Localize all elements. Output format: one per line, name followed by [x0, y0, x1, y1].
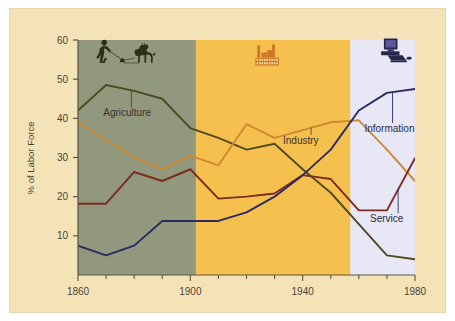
y-tick-label: 40 — [57, 113, 69, 124]
x-tick-label: 1900 — [179, 286, 202, 297]
y-axis-title: % of Labor Force — [25, 122, 36, 195]
era-bands — [78, 40, 415, 275]
y-tick-label: 20 — [57, 191, 69, 202]
y-tick-label: 50 — [57, 74, 69, 85]
annotation-information: Information — [364, 123, 414, 134]
y-tick-label: 10 — [57, 230, 69, 241]
band-information-era — [350, 40, 415, 275]
annotation-agriculture: Agriculture — [103, 107, 151, 118]
y-tick-label: 60 — [57, 35, 69, 46]
annotation-service: Service — [370, 213, 404, 224]
x-tick-label: 1980 — [404, 286, 427, 297]
y-axis-tick-labels: 102030405060 — [57, 35, 69, 242]
x-tick-label: 1940 — [292, 286, 315, 297]
labor-force-line-chart: % of Labor Force 102030405060 1860190019… — [0, 0, 455, 321]
band-agricultural-era — [78, 40, 196, 275]
x-axis-tick-labels: 1860190019401980 — [67, 286, 427, 297]
annotation-industry: Industry — [283, 135, 319, 146]
x-axis-ticks — [78, 275, 415, 281]
band-industrial-era — [196, 40, 350, 275]
chart-figure: % of Labor Force 102030405060 1860190019… — [0, 0, 455, 321]
x-tick-label: 1860 — [67, 286, 90, 297]
y-axis-ticks — [73, 40, 78, 236]
y-tick-label: 30 — [57, 152, 69, 163]
